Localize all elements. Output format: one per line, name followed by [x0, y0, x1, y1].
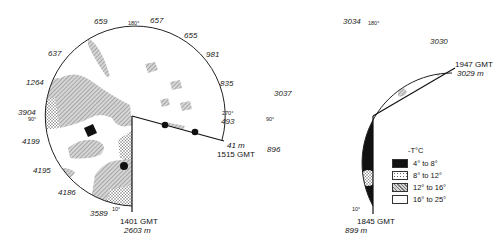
depth-label: 4186 — [58, 188, 76, 197]
depth-label: 896 — [267, 145, 280, 154]
legend-label: 12° to 16° — [413, 183, 446, 192]
start-depth: 2603 m — [124, 226, 158, 235]
degree-mark-180: 180° — [368, 20, 379, 26]
depth-label: 655 — [184, 31, 197, 40]
depth-label: 3037 — [274, 89, 292, 98]
start-marker-right: 1845 GMT 899 m — [357, 217, 395, 235]
legend-item: 16° to 25° — [392, 193, 446, 205]
swatch-blank — [392, 195, 408, 204]
end-depth: 3029 m — [457, 69, 493, 78]
degree-mark-270: 270° — [222, 110, 233, 116]
start-depth: 899 m — [345, 226, 395, 235]
depth-label: 4195 — [33, 166, 51, 175]
legend-item: 4° to 8° — [392, 157, 446, 169]
depth-label: 1264 — [26, 78, 44, 87]
degree-mark-10: 10° — [352, 206, 360, 212]
legend-label: 4° to 8° — [413, 159, 438, 168]
end-marker-right: 1947 GMT 3029 m — [455, 60, 493, 78]
end-time: 1515 GMT — [217, 150, 255, 159]
degree-mark-180: 180° — [128, 20, 139, 26]
start-marker-left: 1401 GMT 2603 m — [120, 217, 158, 235]
depth-label: 3034 — [343, 17, 361, 26]
degree-mark-10: 10° — [112, 206, 120, 212]
end-depth: 41 m — [227, 141, 255, 150]
depth-label: 4199 — [22, 137, 40, 146]
end-time: 1947 GMT — [455, 60, 493, 69]
depth-label: 493 — [221, 117, 234, 126]
start-time: 1401 GMT — [120, 217, 158, 226]
depth-label: 3589 — [90, 209, 108, 218]
temperature-dial-diagram — [0, 0, 504, 242]
legend-label: 16° to 25° — [413, 195, 446, 204]
degree-mark-90: 90° — [266, 116, 274, 122]
depth-label: 981 — [206, 50, 219, 59]
legend-label: 8° to 12° — [413, 171, 442, 180]
legend-title: -T°C — [408, 146, 446, 155]
depth-label: 657 — [150, 16, 163, 25]
depth-label: 637 — [48, 49, 61, 58]
swatch-hatch — [392, 183, 408, 192]
end-marker-left: 41 m 1515 GMT — [217, 141, 255, 159]
start-time: 1845 GMT — [357, 217, 395, 226]
legend-item: 12° to 16° — [392, 181, 446, 193]
swatch-solid-black — [392, 159, 408, 168]
legend: -T°C 4° to 8° 8° to 12° 12° to 16° 16° t… — [392, 146, 446, 205]
depth-label: 3030 — [430, 37, 448, 46]
left-dial — [40, 26, 225, 212]
swatch-stipple — [392, 171, 408, 180]
degree-mark-90: 90° — [28, 116, 36, 122]
legend-item: 8° to 12° — [392, 169, 446, 181]
depth-label: 659 — [94, 17, 107, 26]
depth-label: 835 — [220, 79, 233, 88]
